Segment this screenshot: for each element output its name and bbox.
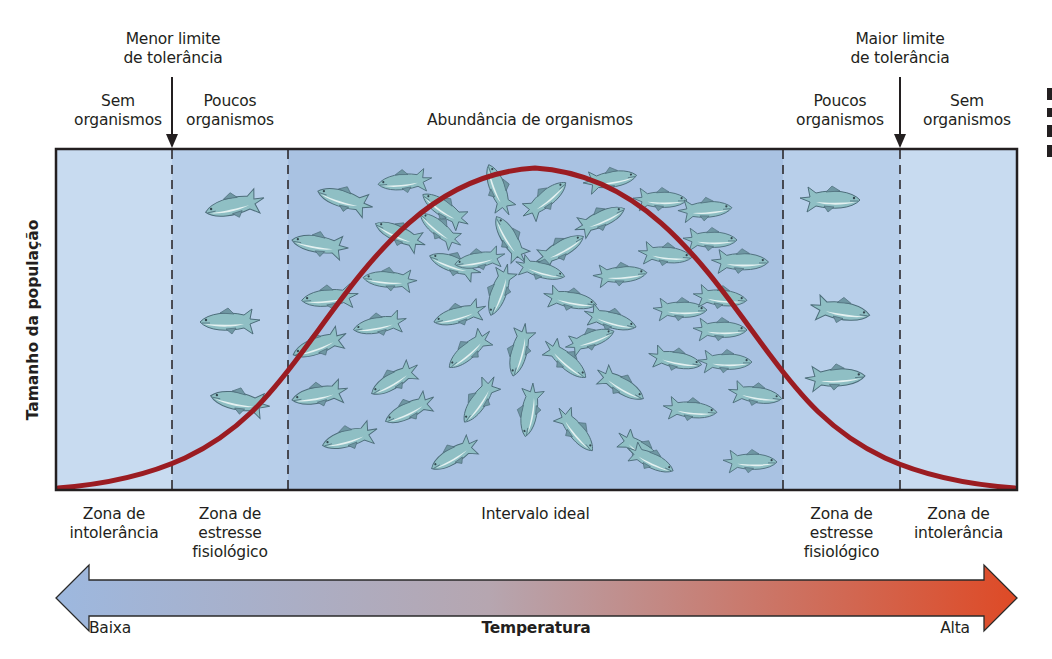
lower-limit-arrow [166, 77, 178, 148]
zone-label-ideal: Intervalo ideal [288, 505, 783, 524]
lower-limit-label: Menor limite de tolerância [113, 30, 233, 68]
zone-label-stress-low: Zona de estresse fisiológico [172, 505, 288, 562]
cropped-text-fragment [1047, 145, 1052, 157]
zone-band-intolerance-low [56, 150, 172, 490]
upper-limit-label: Maior limite de tolerância [840, 30, 960, 68]
temperature-high-label: Alta [930, 619, 980, 638]
abundance-label: Abundância de organismos [380, 111, 680, 130]
zone-label-intolerance-high: Zona de intolerância [900, 505, 1017, 543]
no-organisms-left-label: Sem organismos [73, 92, 163, 130]
zone-label-stress-high: Zona de estresse fisiológico [783, 505, 900, 562]
temperature-low-label: Baixa [80, 619, 140, 638]
upper-limit-arrow [894, 77, 906, 148]
cropped-text-fragment [1047, 108, 1052, 117]
zone-band-intolerance-high [900, 150, 1017, 490]
few-organisms-right-label: Poucos organismos [790, 92, 890, 130]
no-organisms-right-label: Sem organismos [912, 92, 1022, 130]
y-axis-label: Tamanho da população [24, 220, 42, 421]
cropped-text-fragment [1047, 125, 1052, 137]
zone-label-intolerance-low: Zona de intolerância [56, 505, 172, 543]
cropped-text-fragment [1047, 88, 1052, 100]
few-organisms-left-label: Poucos organismos [180, 92, 280, 130]
temperature-axis-title: Temperatura [436, 619, 636, 638]
